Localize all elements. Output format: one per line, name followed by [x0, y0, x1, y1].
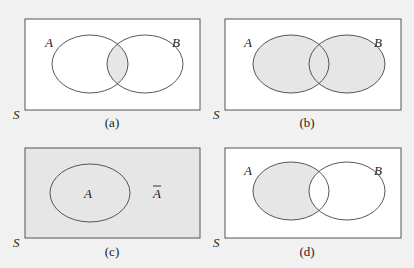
set-b-label: B — [374, 35, 382, 50]
set-a-label: A — [243, 35, 252, 50]
set-a-label: A — [44, 35, 53, 50]
panel-d: A B S (d) — [213, 148, 401, 259]
universe-label: S — [213, 235, 220, 250]
panel-caption: (c) — [105, 244, 119, 259]
panel-caption: (d) — [299, 244, 314, 259]
complement-label: A — [152, 186, 161, 201]
panel-caption: (b) — [299, 115, 314, 130]
universe-label: S — [213, 107, 220, 122]
panel-c: A A S (c) — [13, 148, 200, 259]
venn-diagram-figure: A B S (a) A B S (b) A A S (c) A B S (d) — [0, 0, 414, 268]
universe-rectangle-shaded — [25, 148, 200, 238]
set-a-label: A — [243, 163, 252, 178]
universe-label: S — [13, 107, 20, 122]
set-b-label: B — [374, 163, 382, 178]
set-b-label: B — [172, 35, 180, 50]
panel-caption: (a) — [105, 115, 119, 130]
panel-b: A B S (b) — [213, 19, 401, 130]
set-a-label: A — [83, 186, 92, 201]
universe-label: S — [13, 235, 20, 250]
panel-a: A B S (a) — [13, 19, 200, 130]
